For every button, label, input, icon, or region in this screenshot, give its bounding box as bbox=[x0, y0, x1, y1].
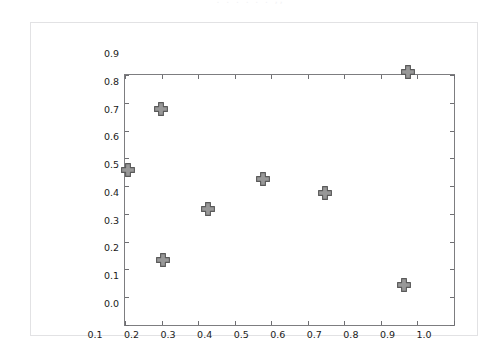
y-axis-tick bbox=[125, 325, 129, 326]
y-axis-tick-label: 0.0 bbox=[89, 298, 119, 309]
scatter-point[interactable] bbox=[397, 278, 411, 292]
scatter-point[interactable] bbox=[156, 253, 170, 267]
y-axis-tick-label: 0.6 bbox=[89, 131, 119, 142]
y-axis-tick bbox=[450, 75, 454, 76]
x-axis-tick-label: 0.8 bbox=[343, 329, 358, 340]
y-axis-tick-label: 0.2 bbox=[89, 242, 119, 253]
y-axis-tick-label: 0.8 bbox=[89, 75, 119, 86]
x-axis-tick bbox=[198, 75, 199, 79]
x-axis-tick bbox=[308, 75, 309, 79]
y-axis-tick-label: 0.9 bbox=[89, 48, 119, 59]
x-axis-tick bbox=[162, 321, 163, 325]
y-axis-tick bbox=[125, 131, 129, 132]
scatter-point[interactable] bbox=[401, 65, 415, 79]
x-axis-tick bbox=[162, 75, 163, 79]
x-axis-tick-label: 0.1 bbox=[87, 329, 102, 340]
x-axis-tick bbox=[454, 321, 455, 325]
y-axis-tick bbox=[450, 297, 454, 298]
x-axis-tick-label: 0.6 bbox=[270, 329, 285, 340]
x-axis-tick bbox=[235, 75, 236, 79]
x-axis-tick bbox=[417, 321, 418, 325]
y-axis-tick bbox=[450, 158, 454, 159]
y-axis-tick bbox=[450, 186, 454, 187]
x-axis-tick bbox=[344, 321, 345, 325]
y-axis-tick-label: 0.3 bbox=[89, 214, 119, 225]
y-axis-tick-label: 0.1 bbox=[89, 270, 119, 281]
x-axis-tick-label: 0.3 bbox=[161, 329, 176, 340]
x-axis-tick-label: 1.0 bbox=[416, 329, 431, 340]
x-axis-tick bbox=[381, 321, 382, 325]
y-axis-tick bbox=[125, 186, 129, 187]
x-axis-tick bbox=[417, 75, 418, 79]
y-axis-tick bbox=[125, 103, 129, 104]
y-axis-tick bbox=[125, 297, 129, 298]
y-axis-tick bbox=[450, 131, 454, 132]
y-axis-tick bbox=[125, 158, 129, 159]
scatter-point[interactable] bbox=[201, 202, 215, 216]
y-axis-tick bbox=[450, 214, 454, 215]
x-axis-tick bbox=[271, 75, 272, 79]
x-axis-tick bbox=[308, 321, 309, 325]
x-axis-tick bbox=[344, 75, 345, 79]
x-axis-tick-label: 0.9 bbox=[380, 329, 395, 340]
figure-top-caption: . . . . . . ,, bbox=[0, 0, 501, 7]
y-axis-tick-label: 0.5 bbox=[89, 159, 119, 170]
x-axis-tick bbox=[235, 321, 236, 325]
y-axis-tick bbox=[450, 269, 454, 270]
figure-frame: 0.10.20.30.40.50.60.70.80.91.00.00.10.20… bbox=[30, 22, 478, 336]
x-axis-tick-label: 0.4 bbox=[197, 329, 212, 340]
y-axis-tick bbox=[450, 325, 454, 326]
y-axis-tick-label: 0.7 bbox=[89, 103, 119, 114]
scatter-point[interactable] bbox=[318, 186, 332, 200]
y-axis-tick bbox=[125, 214, 129, 215]
y-axis-tick bbox=[450, 242, 454, 243]
scatter-point[interactable] bbox=[154, 102, 168, 116]
y-axis-tick bbox=[125, 242, 129, 243]
y-axis-tick-label: 0.4 bbox=[89, 186, 119, 197]
y-axis-tick bbox=[125, 75, 129, 76]
x-axis-tick-label: 0.2 bbox=[124, 329, 139, 340]
x-axis-tick bbox=[381, 75, 382, 79]
x-axis-tick-label: 0.5 bbox=[234, 329, 249, 340]
y-axis-tick bbox=[450, 103, 454, 104]
scatter-point[interactable] bbox=[256, 172, 270, 186]
x-axis-tick bbox=[198, 321, 199, 325]
y-axis-tick bbox=[125, 269, 129, 270]
x-axis-tick-label: 0.7 bbox=[307, 329, 322, 340]
x-axis-tick bbox=[271, 321, 272, 325]
x-axis-tick bbox=[454, 75, 455, 79]
scatter-point[interactable] bbox=[121, 163, 135, 177]
